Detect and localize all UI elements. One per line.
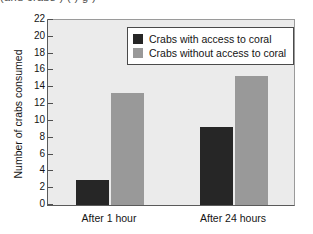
legend-item-0: Crabs with access to coral xyxy=(133,32,286,46)
y-tick-label-10: 10 xyxy=(34,114,45,125)
y-tick-label-12: 12 xyxy=(34,97,45,108)
bar-chart-figure: Number of crabs consumed Crabs with acce… xyxy=(0,0,313,234)
bar-1-1 xyxy=(235,76,268,205)
bar-0-0 xyxy=(76,180,109,205)
y-tick-22: 22 xyxy=(48,19,53,20)
y-tick-8: 8 xyxy=(48,137,53,138)
y-tick-label-2: 2 xyxy=(39,181,45,192)
y-tick-16: 16 xyxy=(48,69,53,70)
y-tick-2: 2 xyxy=(48,187,53,188)
y-tick-14: 14 xyxy=(48,86,53,87)
y-tick-0: 0 xyxy=(48,204,53,205)
x-axis-label-0: After 1 hour xyxy=(47,212,171,224)
y-tick-label-14: 14 xyxy=(34,80,45,91)
y-tick-10: 10 xyxy=(48,120,53,121)
y-tick-12: 12 xyxy=(48,103,53,104)
y-tick-label-8: 8 xyxy=(39,131,45,142)
y-tick-4: 4 xyxy=(48,170,53,171)
legend-item-1: Crabs without access to coral xyxy=(133,46,286,60)
legend: Crabs with access to coral Crabs without… xyxy=(127,27,294,65)
legend-label-1: Crabs without access to coral xyxy=(149,47,286,59)
y-tick-label-16: 16 xyxy=(34,63,45,74)
y-tick-label-22: 22 xyxy=(34,13,45,24)
legend-swatch-light xyxy=(133,48,143,58)
y-tick-18: 18 xyxy=(48,53,53,54)
bar-0-1 xyxy=(111,93,144,205)
legend-label-0: Crabs with access to coral xyxy=(149,33,272,45)
y-tick-label-20: 20 xyxy=(34,30,45,41)
x-axis-label-1: After 24 hours xyxy=(171,212,295,224)
y-tick-label-18: 18 xyxy=(34,47,45,58)
y-tick-label-6: 6 xyxy=(39,148,45,159)
legend-swatch-dark xyxy=(133,34,143,44)
y-tick-label-0: 0 xyxy=(39,198,45,209)
y-axis-title: Number of crabs consumed xyxy=(12,24,24,204)
plot-area: Crabs with access to coral Crabs without… xyxy=(47,19,295,206)
y-tick-6: 6 xyxy=(48,154,53,155)
y-tick-label-4: 4 xyxy=(39,164,45,175)
y-tick-20: 20 xyxy=(48,36,53,37)
bar-1-0 xyxy=(200,127,233,205)
